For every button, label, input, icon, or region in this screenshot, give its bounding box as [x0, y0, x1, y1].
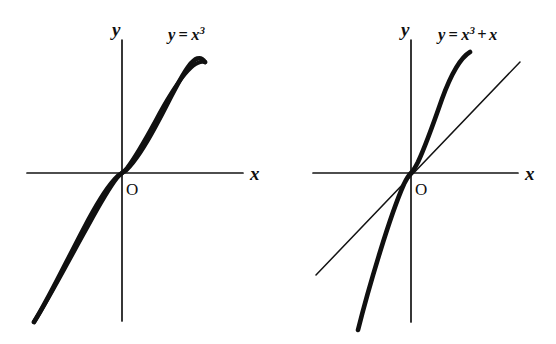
origin-label: O: [415, 180, 427, 199]
chart-panel-cubic: y x O y=x3: [0, 0, 278, 344]
chart-panel-cubic-plus-x: y x O y=x3+x: [278, 0, 556, 344]
identity-line: [316, 62, 520, 275]
fn-base: x: [190, 25, 199, 44]
cubic-plot-svg: y x O y=x3: [0, 0, 278, 344]
fn-op2: +: [477, 25, 487, 44]
y-axis-label: y: [110, 19, 121, 40]
fn-term: x: [488, 25, 497, 44]
figure-root: y x O y=x3 y x O y=x3+x: [0, 0, 556, 344]
cubic-plus-x-curve: [358, 52, 470, 330]
fn-exponent: 3: [469, 24, 476, 36]
fn-op: =: [449, 25, 459, 44]
fn-lhs: y: [436, 25, 446, 44]
x-axis-label: x: [249, 163, 260, 184]
origin-label: O: [126, 180, 138, 199]
cubic-curve-overlay: [34, 62, 205, 322]
y-axis-label: y: [399, 19, 410, 40]
cubic-curve: [34, 58, 205, 322]
fn-base: x: [460, 25, 469, 44]
fn-lhs: y: [166, 25, 176, 44]
fn-exponent: 3: [199, 24, 206, 36]
function-label-cubic-plus-x: y=x3+x: [436, 24, 497, 44]
function-label-cubic: y=x3: [166, 24, 206, 44]
cubic-plus-x-plot-svg: y x O y=x3+x: [278, 0, 556, 344]
x-axis-label: x: [524, 163, 535, 184]
fn-op: =: [179, 25, 189, 44]
